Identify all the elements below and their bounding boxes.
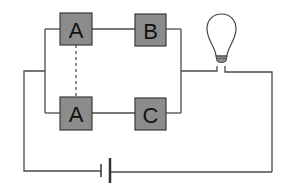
component-box-a-top: A [60, 13, 92, 45]
circuit-diagram: A B A C [0, 0, 282, 194]
light-bulb-icon [207, 14, 236, 63]
battery-icon [101, 158, 110, 183]
box-label-a-bottom: A [69, 102, 84, 127]
component-box-b: B [135, 14, 166, 46]
component-box-a-bottom: A [60, 97, 92, 130]
component-box-c: C [135, 98, 166, 130]
box-label-a-top: A [69, 18, 84, 43]
box-label-c: C [143, 103, 159, 128]
wire-from-lamp [225, 66, 272, 172]
wire-to-lamp [181, 66, 217, 71]
box-label-b: B [143, 19, 158, 44]
